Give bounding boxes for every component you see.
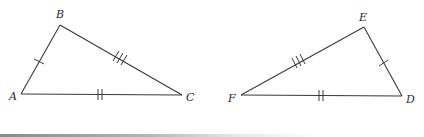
vertex-label-d: D — [405, 93, 415, 106]
side-ef — [241, 27, 364, 95]
side-ab — [21, 25, 60, 94]
vertex-label-a: A — [8, 90, 17, 103]
triangle-abc: A B C — [8, 8, 195, 104]
side-bc — [60, 25, 182, 95]
ticks-bc-3 — [113, 51, 127, 65]
vertex-label-c: C — [186, 91, 195, 104]
side-de — [364, 27, 402, 96]
congruent-triangles-diagram: A B C D E F — [0, 0, 424, 137]
triangle-def: D E F — [227, 11, 415, 106]
vertex-label-e: E — [358, 11, 367, 24]
vertex-label-f: F — [227, 92, 236, 105]
tick-de-1 — [379, 60, 388, 66]
side-fd — [241, 95, 402, 96]
bottom-rule-divider — [0, 134, 424, 137]
vertex-label-b: B — [55, 8, 64, 21]
